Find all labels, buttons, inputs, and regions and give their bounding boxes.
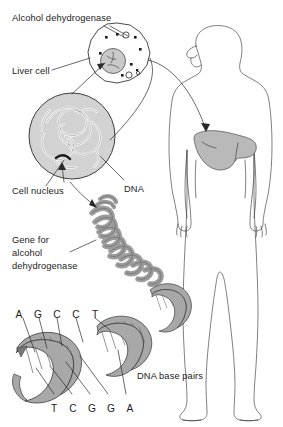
label-gene-line-1: Gene for	[12, 235, 49, 245]
label-dna: DNA	[124, 184, 145, 194]
base-bottom-0: T	[51, 403, 57, 414]
top-strand-bases: A G C C T	[16, 309, 99, 320]
label-alcohol-dehydrogenase: Alcohol dehydrogenase	[12, 13, 111, 23]
label-gene-for-alcohol-dehydrogenase: Gene for alcohol dehydrogenase	[12, 235, 77, 271]
diagram-figure: Alcohol dehydrogenase Liver cell Cell nu…	[0, 0, 283, 427]
base-top-3: C	[72, 309, 79, 320]
liver-cell	[88, 23, 150, 83]
base-top-2: C	[53, 309, 60, 320]
chromatin-coil	[92, 196, 161, 284]
helix-turn-2	[97, 316, 152, 376]
helix-turn-3	[150, 284, 191, 332]
bottom-strand-bases: T C G G A	[51, 403, 134, 414]
label-gene-line-3: dehydrogenase	[12, 261, 77, 271]
label-liver-cell: Liver cell	[12, 66, 50, 76]
base-top-1: G	[34, 309, 42, 320]
base-bottom-2: G	[88, 403, 96, 414]
base-bottom-3: G	[107, 403, 115, 414]
cell-nucleus	[29, 93, 115, 179]
dna-double-helix	[13, 284, 192, 403]
base-top-4: T	[92, 309, 98, 320]
human-body-outline	[169, 26, 272, 421]
label-gene-line-2: alcohol	[12, 248, 42, 258]
liver-organ	[194, 131, 256, 170]
label-dna-base-pairs: DNA base pairs	[137, 371, 203, 381]
base-top-0: A	[16, 309, 23, 320]
base-bottom-1: C	[69, 403, 76, 414]
label-cell-nucleus: Cell nucleus	[12, 186, 64, 196]
base-bottom-4: A	[127, 403, 134, 414]
